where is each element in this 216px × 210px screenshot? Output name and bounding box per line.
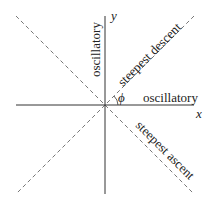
oscillatory-label-horizontal: oscillatory (143, 90, 198, 105)
oscillatory-label-vertical: oscillatory (88, 22, 103, 77)
angle-phi-label: ϕ (118, 90, 125, 105)
stokes-diagram: y x ϕ oscillatory oscillatory steepest d… (0, 0, 216, 210)
steepest-descent-label: steepest descent (115, 19, 185, 89)
steepest-ascent-label: steepest ascent (133, 118, 198, 183)
x-axis-label: x (195, 106, 202, 121)
y-axis-label: y (109, 8, 117, 23)
